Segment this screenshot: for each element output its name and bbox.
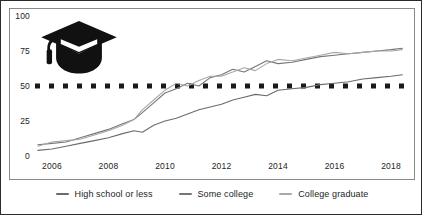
x-axis-tick-label: 2006 (42, 161, 62, 171)
legend-swatch (279, 193, 292, 195)
graduation-cap-icon (38, 17, 120, 79)
legend-item[interactable]: College graduate (279, 189, 368, 199)
legend-label: College graduate (298, 189, 368, 199)
y-axis-tick-label: 25 (20, 116, 30, 126)
y-axis-tick-label: 100 (15, 11, 30, 21)
legend-swatch (56, 193, 69, 195)
chart-legend: High school or lessSome collegeCollege g… (9, 181, 415, 207)
legend-label: Some college (198, 189, 254, 199)
x-axis-tick-label: 2008 (99, 161, 119, 171)
x-axis-tick-label: 2010 (155, 161, 175, 171)
plot-frame: 0255075100 2006200820102012201420162018 (9, 8, 415, 180)
y-axis-tick-label: 50 (20, 81, 30, 91)
x-axis-tick-label: 2016 (325, 161, 345, 171)
y-axis-tick-label: 0 (25, 151, 30, 161)
legend-label: High school or less (75, 189, 153, 199)
chart-figure: 0255075100 2006200820102012201420162018 … (0, 0, 422, 215)
legend-swatch (179, 193, 192, 195)
x-axis-tick-label: 2012 (212, 161, 232, 171)
x-axis-tick-label: 2018 (381, 161, 401, 171)
y-axis-tick-label: 75 (20, 46, 30, 56)
legend-item[interactable]: High school or less (56, 189, 153, 199)
legend-item[interactable]: Some college (179, 189, 254, 199)
x-axis-tick-label: 2014 (268, 161, 288, 171)
